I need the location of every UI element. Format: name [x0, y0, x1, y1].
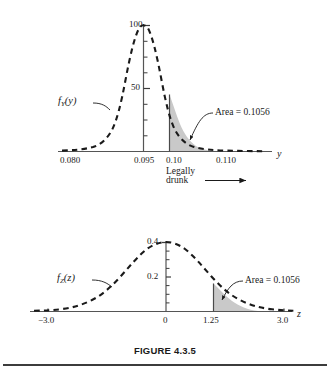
top-y-tick-label-50: 50: [131, 83, 140, 92]
top-y-tick-label-100: 100: [129, 20, 143, 29]
bottom-x-tick-label-0: 0: [163, 316, 168, 325]
top-density-label-arg: (y): [65, 95, 77, 106]
top-x-tick-label-0110: 0.110: [216, 156, 236, 165]
bottom-x-tick-label-neg3: −3.0: [38, 316, 54, 325]
bottom-y-tick-label-04: 0.4: [147, 237, 158, 246]
top-shaded-area: [170, 95, 223, 152]
top-density-label: fY(y): [58, 96, 76, 108]
top-panel-plot: [58, 24, 272, 181]
bottom-density-label: fZ(z): [57, 273, 75, 285]
bottom-density-label-arg: (z): [64, 272, 75, 283]
bottom-x-tick-label-3: 3.0: [277, 316, 288, 325]
top-x-tick-label-0095: 0.095: [134, 156, 154, 165]
top-x-axis-label: y: [277, 149, 281, 159]
top-density-leader-line: [93, 103, 110, 110]
bottom-density-leader-line: [92, 280, 112, 287]
top-area-leader-line: [190, 113, 213, 140]
top-x-tick-label-010: 0.10: [166, 156, 182, 165]
top-density-curve: [62, 25, 264, 151]
top-x-tick-label-0080: 0.080: [60, 156, 80, 165]
bottom-area-annotation: Area = 0.1056: [245, 276, 300, 286]
bottom-x-tick-label-125: 1.25: [203, 316, 219, 325]
top-area-annotation: Area = 0.1056: [215, 108, 270, 118]
figure-caption: FIGURE 4.3.5: [0, 345, 330, 356]
bottom-x-axis-label: z: [297, 309, 301, 319]
bottom-y-tick-label-02: 0.2: [147, 272, 158, 281]
figure-container: 100 50 0.080 0.095 0.10 0.110 y fY(y) Ar…: [0, 0, 330, 371]
legally-drunk-label-line2: drunk: [166, 176, 188, 186]
figure-bottom-rule: [3, 364, 327, 366]
